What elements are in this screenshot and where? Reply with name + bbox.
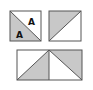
- square-2: [49, 11, 81, 41]
- square-1-label-lower: A: [16, 30, 23, 40]
- diagram-canvas: A A: [0, 0, 93, 90]
- square-1-label-upper: A: [28, 17, 35, 27]
- square-1: A A: [10, 11, 41, 41]
- rectangle: [17, 50, 82, 80]
